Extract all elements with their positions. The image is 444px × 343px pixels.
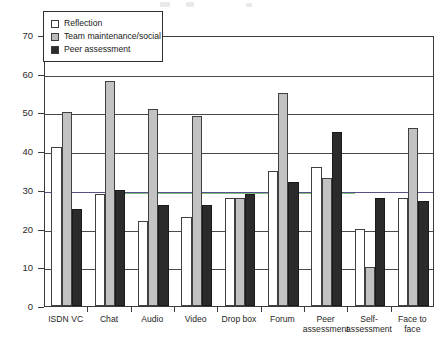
bar: [202, 205, 212, 306]
y-axis-label: 30: [0, 186, 33, 196]
bar-group: [225, 35, 256, 306]
bar: [192, 116, 202, 306]
bar: [311, 167, 321, 306]
x-axis-tick: [131, 307, 132, 312]
legend-swatch-icon: [51, 33, 59, 41]
bar-group: [355, 35, 386, 306]
legend-label: Reflection: [64, 19, 102, 28]
bar: [138, 221, 148, 306]
bar: [51, 147, 61, 306]
bar: [322, 178, 332, 306]
bar: [398, 198, 408, 306]
y-axis-label: 0: [0, 302, 33, 312]
bar: [365, 267, 375, 306]
bar: [181, 217, 191, 306]
bar: [72, 209, 82, 306]
scan-artifacts: [0, 0, 444, 10]
x-axis-tick: [261, 307, 262, 312]
bar: [375, 198, 385, 306]
x-axis-tick: [87, 307, 88, 312]
bar: [355, 229, 365, 306]
bar-group: [311, 35, 342, 306]
y-axis-tick: [38, 307, 44, 308]
x-axis-tick: [347, 307, 348, 312]
bar: [225, 198, 235, 306]
bar: [278, 93, 288, 306]
plot-area: [44, 36, 434, 307]
bar-group: [138, 35, 169, 306]
y-axis-label: 40: [0, 147, 33, 157]
y-axis-label: 70: [0, 31, 33, 41]
bar-group: [95, 35, 126, 306]
x-axis-label: Face toface: [384, 314, 441, 334]
legend-swatch-icon: [51, 20, 59, 28]
bar: [408, 128, 418, 306]
legend-swatch-icon: [51, 46, 59, 54]
x-axis-tick: [391, 307, 392, 312]
bar: [148, 109, 158, 306]
bar: [245, 194, 255, 306]
bar: [95, 194, 105, 306]
bar-group: [268, 35, 299, 306]
bar-chart: 010203040506070 ISDN VCChatAudioVideoDro…: [0, 0, 444, 343]
legend-item: Team maintenance/social: [51, 30, 156, 43]
y-axis-label: 60: [0, 70, 33, 80]
bar: [158, 205, 168, 306]
bar-group: [398, 35, 429, 306]
bar: [288, 182, 298, 306]
legend-label: Peer assessment: [64, 45, 130, 54]
bar-group: [51, 35, 82, 306]
bar: [115, 190, 125, 306]
bar: [332, 132, 342, 306]
y-axis-label: 10: [0, 263, 33, 273]
chart-legend: ReflectionTeam maintenance/socialPeer as…: [43, 11, 163, 62]
legend-label: Team maintenance/social: [64, 32, 161, 41]
legend-item: Reflection: [51, 17, 156, 30]
legend-item: Peer assessment: [51, 43, 156, 56]
y-axis-label: 50: [0, 108, 33, 118]
bar: [62, 112, 72, 306]
x-axis-tick: [304, 307, 305, 312]
x-axis-tick: [174, 307, 175, 312]
bar: [268, 171, 278, 307]
bar-group: [181, 35, 212, 306]
y-axis-label: 20: [0, 225, 33, 235]
bar: [418, 201, 428, 306]
bar: [105, 81, 115, 306]
bar: [235, 198, 245, 306]
x-axis-tick: [217, 307, 218, 312]
